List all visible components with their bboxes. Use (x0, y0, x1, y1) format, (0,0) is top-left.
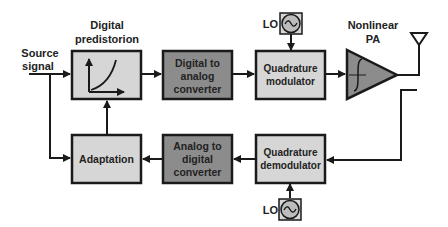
dac-label-2: analog (181, 70, 215, 82)
source-to-adaptation-arrow (50, 74, 70, 158)
adc-label: Analog to (173, 140, 221, 152)
dac-label-3: converter (174, 83, 222, 95)
antenna-icon (411, 33, 427, 45)
qmod-label: Quadrature (264, 63, 318, 74)
adc-label-2: digital (182, 153, 213, 165)
dpd-title-2: predistorion (75, 33, 139, 45)
pa-output-line (397, 40, 419, 75)
feedback-to-demod-arrow (327, 90, 417, 160)
dac-label: Digital to (175, 57, 220, 69)
lo-top-oscillator-icon (280, 13, 302, 34)
quadrature-demodulator-block (256, 135, 325, 183)
qdemod-label: Quadrature (264, 147, 318, 158)
quadrature-modulator-block (256, 51, 325, 99)
qdemod-label-2: demodulator (260, 160, 321, 171)
lo-bottom-oscillator-icon (279, 199, 301, 220)
source-signal-label-2: signal (22, 60, 54, 72)
adaptation-label: Adaptation (79, 153, 134, 165)
pa-label: Nonlinear (348, 19, 399, 31)
qmod-label-2: modulator (266, 76, 315, 87)
adc-label-3: converter (174, 166, 222, 178)
predistortion-block-diagram: Source signal Digital predistorion Digit… (0, 0, 448, 227)
lo-bottom-label: LO (263, 204, 279, 216)
dpd-title: Digital (90, 19, 124, 31)
lo-top-label: LO (263, 18, 279, 30)
pa-label-2: PA (366, 33, 381, 45)
source-signal-label: Source (21, 47, 58, 59)
